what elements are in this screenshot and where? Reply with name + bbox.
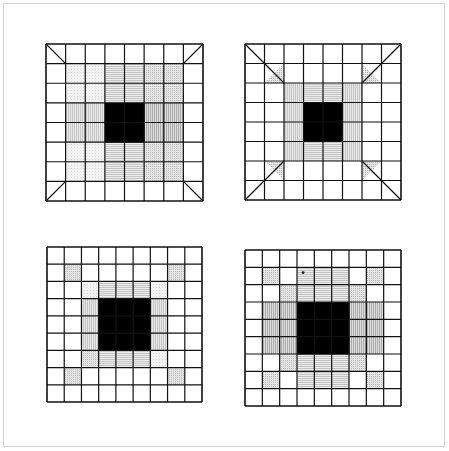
shaded-cell [105, 162, 125, 182]
black-cell [116, 299, 134, 317]
panel-top-right [245, 44, 401, 200]
shaded-cell [150, 316, 167, 333]
shaded-cell [81, 281, 98, 298]
shaded-cell [304, 83, 324, 103]
shaded-cell [332, 371, 349, 388]
black-cell [99, 316, 117, 334]
shaded-cell [262, 319, 279, 336]
panel-bottom-left [47, 247, 202, 402]
shaded-cell [144, 83, 164, 103]
shaded-cell [343, 103, 363, 123]
shaded-cell [262, 302, 279, 319]
shaded-cell [332, 285, 349, 302]
panel-bottom-right-drawing [245, 250, 401, 406]
black-cell [133, 316, 151, 334]
shaded-cell [144, 64, 164, 84]
shaded-cell [349, 337, 366, 354]
shaded-cell [262, 371, 279, 388]
shaded-cell [85, 123, 105, 143]
shaded-cell [144, 123, 164, 143]
black-cell [332, 337, 350, 355]
black-cell [99, 299, 117, 317]
shaded-cell [262, 267, 279, 284]
shaded-cell [99, 350, 116, 367]
shaded-cell [164, 83, 184, 103]
shaded-cell [116, 350, 133, 367]
shaded-cell [99, 281, 116, 298]
shaded-cell [164, 123, 184, 143]
shaded-cell [85, 103, 105, 123]
shaded-cell [85, 162, 105, 182]
shaded-cell [66, 162, 86, 182]
shaded-cell [66, 64, 86, 84]
shaded-cell [150, 350, 167, 367]
shaded-cell [144, 162, 164, 182]
shaded-cell [284, 83, 304, 103]
black-cell [125, 123, 145, 143]
black-cell [116, 316, 134, 334]
shaded-cell [125, 142, 145, 162]
shaded-cell [85, 83, 105, 103]
shaded-cell [133, 281, 150, 298]
shaded-cell [125, 162, 145, 182]
shaded-cell [280, 302, 297, 319]
shaded-cell [105, 142, 125, 162]
shaded-cell [116, 281, 133, 298]
shaded-cell [349, 319, 366, 336]
shaded-cell [349, 354, 366, 371]
shaded-cell [105, 83, 125, 103]
black-cell [323, 103, 343, 123]
shaded-cell [297, 371, 314, 388]
shaded-cell [323, 142, 343, 162]
shaded-cell [297, 267, 314, 284]
shaded-cell [349, 302, 366, 319]
shaded-cell [81, 299, 98, 316]
black-cell [125, 103, 145, 123]
shaded-cell [85, 64, 105, 84]
shaded-cell [85, 142, 105, 162]
shaded-cell [168, 264, 185, 281]
panel-bottom-left-drawing [47, 247, 202, 402]
panel-top-left [46, 44, 203, 201]
black-cell [332, 319, 350, 337]
shaded-cell [343, 122, 363, 142]
shaded-cell [150, 299, 167, 316]
black-cell [133, 299, 151, 317]
shaded-cell [81, 333, 98, 350]
black-cell [105, 123, 125, 143]
black-cell [99, 333, 117, 351]
black-cell [105, 103, 125, 123]
shaded-cell [280, 285, 297, 302]
shaded-cell [297, 354, 314, 371]
black-cell [297, 337, 315, 355]
shaded-cell [284, 142, 304, 162]
dot-marker [302, 271, 305, 274]
black-cell [332, 302, 350, 320]
shaded-cell [366, 319, 383, 336]
shaded-cell [105, 64, 125, 84]
shaded-cell [164, 103, 184, 123]
shaded-cell [280, 337, 297, 354]
shaded-cell [314, 267, 331, 284]
panel-top-left-drawing [46, 44, 203, 201]
shaded-cell [314, 285, 331, 302]
shaded-cell [280, 354, 297, 371]
shaded-cell [125, 83, 145, 103]
shaded-cell [168, 368, 185, 385]
shaded-cell [284, 103, 304, 123]
shaded-cell [144, 142, 164, 162]
black-cell [133, 333, 151, 351]
shaded-cell [66, 123, 86, 143]
shaded-cell [164, 142, 184, 162]
shaded-cell [81, 350, 98, 367]
shaded-cell [262, 337, 279, 354]
shaded-cell [332, 267, 349, 284]
shaded-cell [150, 333, 167, 350]
shaded-cell [164, 64, 184, 84]
black-cell [314, 337, 332, 355]
black-cell [314, 302, 332, 320]
shaded-cell [64, 368, 81, 385]
shaded-cell [284, 122, 304, 142]
black-cell [297, 319, 315, 337]
panel-top-right-drawing [245, 44, 401, 200]
